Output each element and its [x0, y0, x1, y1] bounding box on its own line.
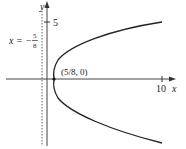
x-axis-arrow-icon [169, 77, 176, 82]
directrix-numerator: 5 [33, 32, 37, 40]
directrix-denominator: 8 [33, 42, 37, 50]
y-tick-label-5: 5 [53, 17, 58, 28]
parabola-curve [54, 22, 162, 143]
x-axis [6, 76, 176, 82]
x-tick-label-10: 10 [156, 83, 166, 94]
y-axis-label: y [39, 1, 45, 12]
parabola-figure: 10 x y 5 x = − 5 8 (5/8, 0) [0, 0, 186, 149]
x-axis-label: x [171, 83, 177, 94]
y-axis-arrow-icon [45, 1, 50, 8]
vertex-label: (5/8, 0) [61, 67, 88, 77]
y-axis [44, 1, 50, 146]
directrix-label: x = − 5 8 [8, 32, 38, 50]
svg-text:x = −: x = − [8, 35, 32, 46]
vertex-point [52, 77, 55, 80]
